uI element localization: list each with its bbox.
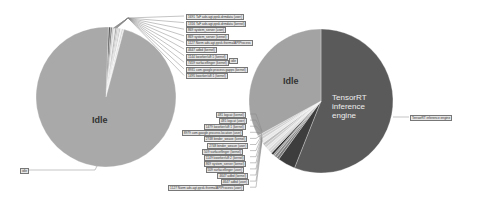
right-tensorrt-label: TensorRT inference engine	[410, 115, 452, 121]
right-slice-label: 481 logcat (kernel)	[216, 112, 246, 118]
right-slice-label: 509 surfaceflinger (kernel)	[202, 149, 243, 155]
right-slice-label: 509 surfaceflinger (user)	[206, 167, 245, 173]
left-slice-label: 1144 kworker/u8:1 (kernel)	[186, 54, 228, 60]
right-slice-label: 4647 adbd (kernel)	[217, 173, 248, 179]
right-slice-label: 2748 binder_weave (user)	[207, 143, 248, 149]
left-slice-label: 4647 adbd (kernel)	[186, 47, 217, 53]
left-slice-label: 1495 kworker/u8:1 (kernel)	[186, 73, 228, 79]
right-slice-label: 1479 kworker/u8:1 (kernel)	[204, 124, 246, 130]
left-slice-label: 8931 com.google.process.gapps (kernel)	[186, 67, 248, 73]
right-idle-label: Idle	[283, 76, 299, 86]
right-slice-label: 4647 adbd (user)	[221, 179, 249, 185]
pie-slice	[36, 27, 176, 167]
right-slice-label: 481 logcat (user)	[219, 118, 247, 124]
right-slice-label: 1149 kworker/u8:2 (kernel)	[204, 155, 246, 161]
left-pie	[36, 27, 176, 167]
left-idle-label: Idle	[92, 115, 108, 125]
right-slice-label: 2748 binder_weave (kernel)	[204, 136, 248, 142]
left-idle-small-label: idle	[20, 168, 29, 174]
right-slice-label: 8979 com.google.process.location (user)	[182, 130, 244, 136]
left-idle-tag: idle	[229, 58, 238, 64]
right-slice-label: 1127 Norm ads.agt.ppsk.thermalAPIProcess…	[168, 185, 244, 191]
left-slice-label: 7459 surfaceflinger (kernel)	[186, 60, 229, 66]
left-slice-label: 1316 TaF ads.agt.ppsk.drmdata (kernel)	[186, 21, 246, 27]
left-slice-label: 1691 TaF ads.agt.ppsk.drmdata (user)	[186, 14, 244, 20]
tensorrt-label: TensorRT inference engine	[332, 93, 382, 120]
left-slice-label: 1127 Norm ads.agt.ppsk.thermalAPIProcess	[186, 40, 253, 46]
left-slice-label: 869 system_server (user)	[186, 27, 226, 33]
right-slice-label: 869 system_server (kernel)	[204, 161, 247, 167]
left-slice-label: 869 system_server (kernel)	[186, 34, 229, 40]
